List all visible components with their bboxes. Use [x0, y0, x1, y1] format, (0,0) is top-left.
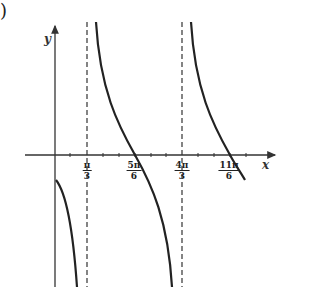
- tick-label-11pi-6: 11π 6: [218, 160, 239, 181]
- curve-branch-3: [191, 22, 245, 180]
- tick-label-4pi-3: 4π 3: [175, 160, 190, 181]
- tick-label-pi-3: π 3: [83, 160, 92, 181]
- y-axis-label: y: [44, 32, 51, 46]
- x-axis-label: x: [262, 158, 269, 172]
- curve-branch-1: [56, 180, 77, 287]
- tick-label-5pi-6: 5π 6: [127, 160, 142, 181]
